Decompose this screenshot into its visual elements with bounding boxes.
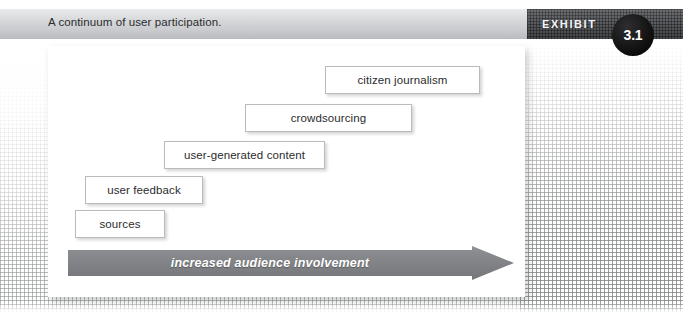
exhibit-number: 3.1 (624, 27, 643, 43)
exhibit-number-badge: 3.1 (612, 14, 654, 56)
continuum-step-label: user-generated content (184, 149, 305, 161)
continuum-step-box: sources (75, 210, 165, 238)
background-mesh-texture-right (520, 44, 683, 312)
exhibit-header-banner: A continuum of user participation. EXHIB… (0, 9, 683, 39)
exhibit-label: EXHIBIT (542, 18, 597, 30)
continuum-step-label: user feedback (107, 184, 181, 196)
continuum-step-box: citizen journalism (325, 66, 480, 94)
arrow-right-icon (68, 246, 514, 280)
exhibit-caption: A continuum of user participation. (48, 16, 221, 28)
diagram-panel: citizen journalismcrowdsourcinguser-gene… (48, 46, 525, 297)
continuum-step-label: crowdsourcing (291, 112, 366, 124)
continuum-step-box: user-generated content (164, 141, 325, 169)
continuum-step-label: citizen journalism (358, 74, 448, 86)
involvement-arrow: increased audience involvement (68, 246, 514, 280)
continuum-step-box: crowdsourcing (245, 104, 412, 132)
continuum-step-box: user feedback (85, 176, 203, 204)
continuum-step-label: sources (100, 218, 141, 230)
exhibit-figure: A continuum of user participation. EXHIB… (0, 0, 683, 330)
